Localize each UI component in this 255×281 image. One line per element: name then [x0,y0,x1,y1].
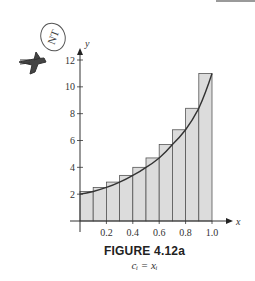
riemann-bar [93,187,106,221]
y-axis-arrow-icon [77,48,83,55]
x-axis-label: x [235,216,241,227]
riemann-bar [106,182,119,221]
riemann-bar [120,175,133,221]
riemann-bar [133,167,146,221]
riemann-sum-chart: NT xy0.20.40.60.81.024681012 [0,0,255,281]
x-tick-label: 1.0 [206,227,219,238]
bird-sketch-icon [19,52,46,74]
svg-text:NT: NT [45,28,61,46]
figure-subtitle: cᵢ = xᵢ [0,259,255,271]
x-tick-label: 0.8 [179,227,192,238]
x-tick-label: 0.2 [100,227,113,238]
y-tick-label: 2 [70,189,75,200]
y-tick-label: 6 [70,135,75,146]
x-tick-label: 0.4 [127,227,140,238]
riemann-bar [186,108,199,221]
riemann-bar [146,158,159,221]
figure-title: FIGURE 4.12a [0,244,255,258]
y-tick-label: 10 [65,81,75,92]
nt-stamp-icon: NT [37,20,69,55]
x-axis-arrow-icon [226,218,233,224]
x-tick-label: 0.6 [153,227,166,238]
y-tick-label: 12 [65,55,75,66]
riemann-bar [80,191,93,221]
y-tick-label: 4 [70,162,75,173]
riemann-bar [199,73,212,221]
y-tick-label: 8 [70,108,75,119]
y-axis-label: y [84,38,90,49]
